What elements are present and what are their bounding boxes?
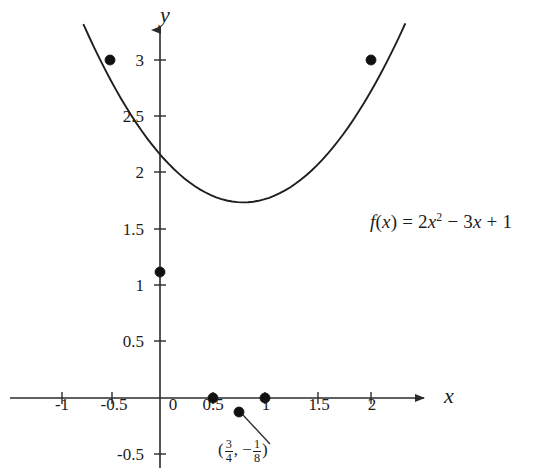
- fraction-numerator: 3: [225, 438, 233, 452]
- y-tick-label: 3: [98, 52, 144, 69]
- x-tick-label: 1: [262, 396, 271, 413]
- parabola-figure: -1 -0.5 0 0.5 1 1.5 2 3 2.5 2 1.5 1 0.5 …: [0, 0, 551, 473]
- formula-minus: −: [447, 211, 458, 232]
- fraction-numerator: 1: [253, 438, 261, 452]
- data-point: [366, 55, 376, 65]
- x-tick-label: -1: [55, 396, 69, 413]
- annot-minus: −: [242, 440, 252, 459]
- data-point: [234, 407, 244, 417]
- function-formula: f(x) = 2x2 − 3x + 1: [370, 212, 512, 231]
- formula-coef-a: 2: [418, 211, 428, 232]
- fraction-three-quarters: 34: [225, 438, 233, 465]
- formula-equals: =: [402, 211, 413, 232]
- y-tick-label: -0.5: [90, 446, 144, 463]
- data-points: [105, 55, 376, 417]
- y-axis-label: y: [160, 4, 170, 26]
- formula-exponent: 2: [436, 211, 442, 224]
- y-tick-label: 1: [98, 277, 144, 294]
- y-tick-label: 0.5: [98, 333, 144, 350]
- annot-close-paren: ): [262, 440, 268, 459]
- formula-close-paren: ): [391, 211, 398, 232]
- x-tick-label: 2: [368, 396, 377, 413]
- fraction-denominator: 4: [225, 452, 233, 465]
- annot-comma: ,: [234, 440, 238, 459]
- x-tick-label: 1.5: [308, 396, 329, 413]
- formula-plus: +: [487, 211, 498, 232]
- fraction-one-eighth: 18: [253, 438, 261, 465]
- data-point: [155, 267, 165, 277]
- plot-canvas: [0, 0, 551, 473]
- y-tick-label: 2.5: [98, 108, 144, 125]
- fraction-denominator: 8: [253, 452, 261, 465]
- x-tick-label: -0.5: [101, 396, 128, 413]
- formula-coef-b: 3: [463, 211, 473, 232]
- x-axis-label: x: [444, 385, 454, 407]
- formula-term2-var: x: [473, 211, 482, 232]
- vertex-annotation: (34, −18): [218, 438, 268, 465]
- y-tick-label: 2: [98, 164, 144, 181]
- x-tick-label: 0.5: [202, 396, 223, 413]
- x-tick-label: 0: [169, 396, 178, 413]
- y-tick-label: 1.5: [98, 221, 144, 238]
- formula-var: x: [382, 211, 391, 232]
- formula-constant: 1: [502, 211, 512, 232]
- annot-open-paren: (: [218, 440, 224, 459]
